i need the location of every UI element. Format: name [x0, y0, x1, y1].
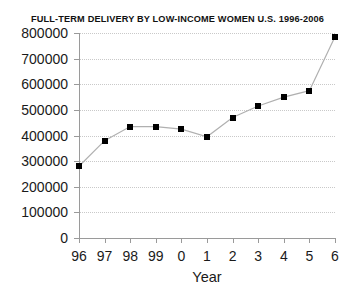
- y-tick-label: 700000: [21, 52, 68, 66]
- y-tick-label: 500000: [21, 103, 68, 117]
- y-tick-label: 0: [60, 231, 68, 245]
- x-tick-mark: [335, 238, 336, 243]
- x-axis-title: Year: [79, 269, 335, 285]
- x-tick-mark: [79, 238, 80, 243]
- gridline: [79, 33, 335, 34]
- y-tick-label: 800000: [21, 26, 68, 40]
- gridline: [79, 212, 335, 213]
- y-tick-mark: [74, 212, 79, 213]
- y-axis-line: [79, 33, 80, 238]
- chart-title: FULL-TERM DELIVERY BY LOW-INCOME WOMEN U…: [0, 14, 355, 24]
- y-tick-mark: [74, 136, 79, 137]
- y-tick-label: 600000: [21, 77, 68, 91]
- gridline: [79, 84, 335, 85]
- y-tick-label: 300000: [21, 154, 68, 168]
- gridline: [79, 110, 335, 111]
- y-tick-mark: [74, 59, 79, 60]
- x-tick-mark: [258, 238, 259, 243]
- data-point-marker: [281, 94, 287, 100]
- data-point-marker: [102, 138, 108, 144]
- data-point-marker: [306, 88, 312, 94]
- data-point-marker: [204, 134, 210, 140]
- chart-container: FULL-TERM DELIVERY BY LOW-INCOME WOMEN U…: [0, 0, 355, 295]
- y-tick-mark: [74, 187, 79, 188]
- x-tick-mark: [130, 238, 131, 243]
- y-tick-mark: [74, 33, 79, 34]
- y-tick-mark: [74, 110, 79, 111]
- data-point-marker: [127, 124, 133, 130]
- x-tick-mark: [284, 238, 285, 243]
- x-tick-mark: [181, 238, 182, 243]
- data-point-marker: [332, 34, 338, 40]
- x-tick-label: 6: [318, 249, 352, 263]
- x-tick-mark: [105, 238, 106, 243]
- gridline: [79, 161, 335, 162]
- y-tick-mark: [74, 84, 79, 85]
- data-point-marker: [153, 124, 159, 130]
- x-tick-mark: [207, 238, 208, 243]
- data-point-marker: [255, 103, 261, 109]
- y-tick-label: 100000: [21, 205, 68, 219]
- data-point-marker: [76, 163, 82, 169]
- x-tick-mark: [309, 238, 310, 243]
- x-tick-mark: [233, 238, 234, 243]
- data-point-marker: [230, 115, 236, 121]
- y-tick-label: 400000: [21, 129, 68, 143]
- y-tick-mark: [74, 161, 79, 162]
- y-tick-label: 200000: [21, 180, 68, 194]
- gridline: [79, 187, 335, 188]
- gridline: [79, 59, 335, 60]
- data-point-marker: [178, 126, 184, 132]
- x-tick-mark: [156, 238, 157, 243]
